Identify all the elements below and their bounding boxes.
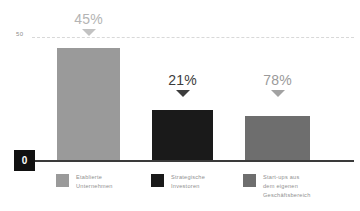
value-callout-etablierte-unternehmen: 45% xyxy=(58,12,119,36)
legend-item-start-ups[interactable]: Start-ups aus dem eigenen Geschäftsberei… xyxy=(243,173,353,201)
pointer-down-icon-2 xyxy=(176,90,190,97)
legend-swatch-icon-1 xyxy=(56,174,69,187)
legend-item-etablierte-unternehmen[interactable]: Etablierte Unternehmen xyxy=(56,173,141,191)
bar-chart: 50 45% 21% 78% 0 Etablierte Unternehmen … xyxy=(0,0,360,211)
legend-swatch-icon-2 xyxy=(151,174,164,187)
pointer-down-icon-3 xyxy=(271,90,285,97)
value-callout-start-ups: 78% xyxy=(246,73,309,97)
bar-etablierte-unternehmen xyxy=(57,48,120,160)
legend-swatch-icon-3 xyxy=(243,174,256,187)
legend: Etablierte Unternehmen Strategische Inve… xyxy=(0,173,360,211)
legend-label-1: Etablierte Unternehmen xyxy=(76,173,113,191)
origin-marker: 0 xyxy=(14,150,35,171)
legend-item-strategische-investoren[interactable]: Strategische Investoren xyxy=(151,173,236,191)
x-axis-baseline xyxy=(26,160,354,162)
bar-start-ups xyxy=(245,116,310,160)
gridline-50 xyxy=(32,37,354,38)
value-label-21: 21% xyxy=(152,73,213,87)
origin-marker-label: 0 xyxy=(22,156,28,166)
legend-label-3: Start-ups aus dem eigenen Geschäftsberei… xyxy=(263,173,311,201)
y-axis-tick-label-50: 50 xyxy=(16,31,23,37)
pointer-down-icon-1 xyxy=(82,29,96,36)
value-label-78: 78% xyxy=(246,73,309,87)
bar-strategische-investoren xyxy=(152,110,213,160)
legend-label-2: Strategische Investoren xyxy=(171,173,205,191)
value-label-45: 45% xyxy=(58,12,119,26)
value-callout-strategische-investoren: 21% xyxy=(152,73,213,97)
